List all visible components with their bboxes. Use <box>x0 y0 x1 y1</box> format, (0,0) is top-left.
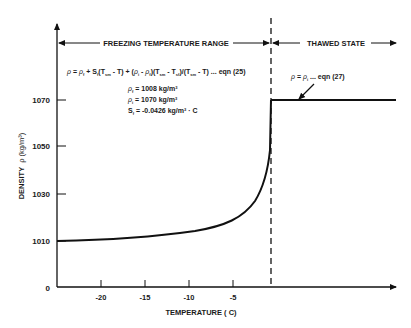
y-tick-labels: 1070 1050 1030 1010 0 <box>32 96 50 293</box>
svg-text:1050: 1050 <box>32 142 50 151</box>
svg-text:-10: -10 <box>184 293 195 302</box>
parameters-block: ρf = 1008 kg/m3 ρi = 1070 kg/m3 Sf = -0.… <box>127 85 198 116</box>
equation-25: ρ = ρf + Sf(Tsm - T) + (ρi - ρf)(Tsm - T… <box>66 68 245 77</box>
svg-text:1030: 1030 <box>32 190 50 199</box>
svg-text:THAWED STATE: THAWED STATE <box>307 39 365 48</box>
svg-text:-15: -15 <box>140 293 151 302</box>
svg-text:DENSITYρ (kg/m³): DENSITYρ (kg/m³) <box>17 132 26 199</box>
y-ticks <box>57 100 66 241</box>
svg-text:1070: 1070 <box>32 96 50 105</box>
svg-text:-5: -5 <box>230 293 237 302</box>
svg-text:1010: 1010 <box>32 237 50 246</box>
svg-text:-20: -20 <box>96 293 107 302</box>
x-tick-labels: -20 -15 -10 -5 <box>96 293 237 302</box>
svg-text:ρf = 1008 kg/m3: ρf = 1008 kg/m3 <box>127 85 178 94</box>
x-axis-title: TEMPERATURE ( C) <box>165 308 237 317</box>
x-ticks <box>101 280 233 287</box>
eqn27-pointer <box>299 84 314 99</box>
svg-text:FREEZING TEMPERATURE RANGE: FREEZING TEMPERATURE RANGE <box>103 39 229 48</box>
svg-text:0: 0 <box>46 284 51 293</box>
frozen-density-curve <box>57 100 271 241</box>
equation-27: ρ = ρi ... eqn (27) <box>290 73 345 82</box>
freezing-range-arrow: FREEZING TEMPERATURE RANGE <box>59 39 269 48</box>
thawed-state-arrow: THAWED STATE <box>273 39 396 48</box>
y-axis-title: DENSITYρ (kg/m³) <box>17 132 26 199</box>
density-chart: 1070 1050 1030 1010 0 -20 -15 -10 -5 TEM… <box>0 0 411 328</box>
svg-text:Sf = -0.0426 kg/m3 · C: Sf = -0.0426 kg/m3 · C <box>128 107 198 116</box>
svg-text:ρi = 1070 kg/m3: ρi = 1070 kg/m3 <box>127 96 178 105</box>
